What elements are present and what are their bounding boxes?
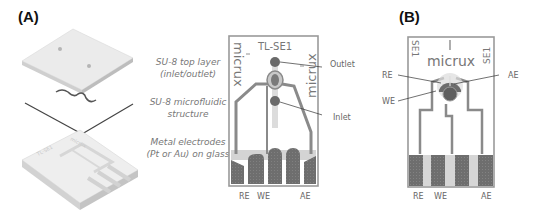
electrode-glass-layer: TL-SE1 micrux (22, 130, 138, 210)
caption-top-layer-line1: SU-8 top layer (138, 56, 238, 68)
chip-b-label-we: WE (434, 192, 447, 201)
su8-microfluidic-layer (25, 90, 133, 134)
chip-a-topview: TL-SE1 micrux micrux (226, 32, 322, 190)
chip-b-label-ae: AE (481, 192, 492, 201)
chip-b-callout-ae: AE (508, 71, 519, 80)
inlet-callout: Inlet (333, 113, 351, 122)
chip-a-label-ae: AE (300, 192, 311, 201)
chip-b-label-re: RE (413, 192, 424, 201)
outlet-port (270, 57, 280, 67)
chip-a-brand-left: micrux (231, 42, 246, 87)
chip-b-leaders (380, 60, 536, 110)
chip-a-title: TL-SE1 (257, 41, 292, 52)
caption-microfluidic-line2: structure (138, 108, 238, 120)
caption-microfluidic-line1: SU-8 microfluidic (138, 96, 238, 108)
chip-a-brand-right: micrux (304, 53, 319, 98)
chip-b-topview: micrux SE1 SE1 (404, 34, 498, 192)
chip-a-label-re: RE (239, 192, 250, 201)
inlet-port (270, 96, 280, 106)
caption-electrode-layer: Metal electrodes (Pt or Au) on glass (136, 136, 240, 160)
panel-b-label: (B) (399, 8, 420, 25)
caption-top-layer-line2: (inlet/outlet) (138, 68, 238, 80)
chip-a-label-we: WE (257, 192, 270, 201)
caption-top-layer: SU-8 top layer (inlet/outlet) (138, 56, 238, 80)
chip-b-callout-re: RE (382, 71, 393, 80)
caption-electrode-line2: (Pt or Au) on glass (136, 148, 240, 160)
caption-electrode-line1: Metal electrodes (136, 136, 240, 148)
su8-top-layer (22, 29, 133, 94)
outlet-callout: Outlet (330, 60, 355, 69)
caption-microfluidic-layer: SU-8 microfluidic structure (138, 96, 238, 120)
chip-b-callout-we: WE (382, 97, 395, 106)
chip-b-side-left: SE1 (410, 40, 420, 57)
exploded-layer-illustration: TL-SE1 micrux (0, 0, 140, 221)
